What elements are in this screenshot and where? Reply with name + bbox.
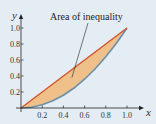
x-axis-label: x: [145, 106, 151, 118]
x-tick-label: 0.4: [58, 111, 68, 120]
y-tick-label: 0.2: [10, 88, 20, 97]
x-tick-label: 1.0: [122, 111, 132, 120]
x-axis-arrow-icon: [139, 106, 144, 110]
annotation-label: Area of inequality: [50, 11, 123, 22]
equality-line: [21, 28, 127, 108]
y-tick-label: 0.6: [10, 56, 20, 65]
y-tick-label: 0.4: [10, 72, 20, 81]
y-axis-label: y: [11, 9, 17, 21]
y-tick-label: 1.0: [10, 24, 20, 33]
x-tick-label: 0.6: [80, 111, 90, 120]
y-axis-arrow-icon: [19, 14, 23, 19]
x-tick-label: 0.8: [101, 111, 111, 120]
chart: 0.20.40.60.81.0 0.20.40.60.81.0 x y Area…: [0, 0, 156, 124]
x-tick-label: 0.2: [37, 111, 47, 120]
y-tick-label: 0.8: [10, 40, 20, 49]
